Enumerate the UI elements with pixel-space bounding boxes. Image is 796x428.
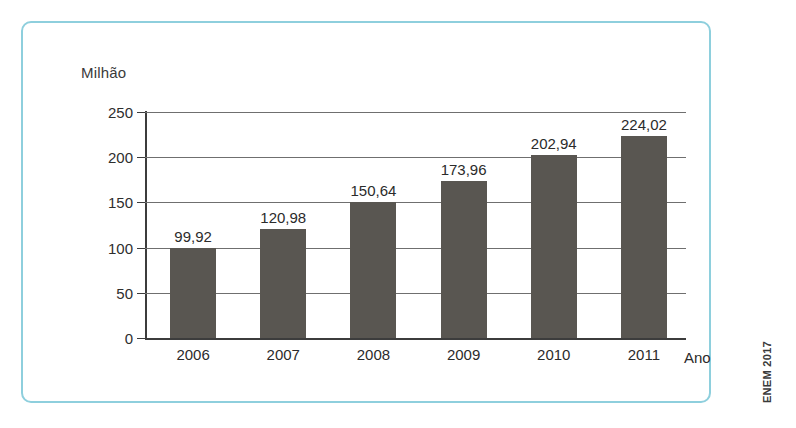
bar: 99,922006 <box>170 248 216 338</box>
bar-value-label: 120,98 <box>260 209 306 226</box>
y-axis-tick-label: 100 <box>108 239 133 256</box>
x-axis-tick-label: 2008 <box>357 346 390 363</box>
gridline <box>145 157 686 158</box>
y-axis-tick-mark <box>137 157 145 158</box>
x-axis-tick-label: 2010 <box>537 346 570 363</box>
y-axis-tick-label: 200 <box>108 149 133 166</box>
bar-value-label: 99,92 <box>174 228 212 245</box>
x-axis-tick-label: 2011 <box>628 346 660 363</box>
y-axis-tick-label: 250 <box>108 104 133 121</box>
x-axis-tick-label: 2009 <box>447 346 480 363</box>
source-credit-label: ENEM 2017 <box>761 341 773 403</box>
bar: 224,022011 <box>621 136 667 339</box>
bar-value-label: 224,02 <box>621 116 667 133</box>
y-axis-tick-label: 150 <box>108 194 133 211</box>
bar: 173,962009 <box>441 181 487 338</box>
bar: 120,982007 <box>260 229 306 338</box>
y-axis-tick-mark <box>137 338 145 339</box>
bar-chart-figure: Milhão 25020015010050099,922006120,98200… <box>0 0 796 428</box>
gridline <box>145 112 686 113</box>
bar: 202,942010 <box>531 155 577 338</box>
x-axis-tick-label: 2006 <box>176 346 209 363</box>
y-axis-tick-label: 50 <box>116 284 133 301</box>
bar-value-label: 150,64 <box>350 182 396 199</box>
x-axis-baseline <box>145 338 686 340</box>
y-axis-tick-mark <box>137 112 145 113</box>
y-axis-tick-mark <box>137 293 145 294</box>
y-axis-tick-label: 0 <box>125 330 133 347</box>
gridline <box>145 248 686 249</box>
bar-value-label: 202,94 <box>531 135 577 152</box>
x-axis-tick-label: 2007 <box>267 346 300 363</box>
gridline <box>145 293 686 294</box>
y-axis-tick-mark <box>137 202 145 203</box>
y-axis-tick-mark <box>137 248 145 249</box>
y-axis-title: Milhão <box>81 64 126 81</box>
x-axis-title: Ano <box>684 349 711 366</box>
gridline <box>145 202 686 203</box>
plot-area: 25020015010050099,922006120,982007150,64… <box>145 112 686 338</box>
bar-value-label: 173,96 <box>441 161 487 178</box>
bar: 150,642008 <box>350 202 396 338</box>
